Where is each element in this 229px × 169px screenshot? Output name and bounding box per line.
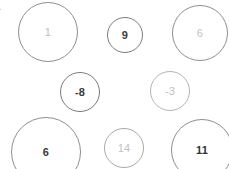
bubble-label: -8: [75, 87, 85, 98]
bubble[interactable]: 9: [107, 17, 143, 53]
left-edge-glyph: r: [0, 6, 1, 17]
bubble[interactable]: 14: [104, 128, 144, 168]
bubble[interactable]: 11: [171, 119, 229, 169]
bubble[interactable]: -8: [60, 72, 100, 112]
bubble[interactable]: -3: [150, 71, 190, 111]
bubble-label: 1: [45, 27, 51, 38]
bubble-label: 9: [122, 30, 128, 41]
bubble-label: -3: [165, 86, 175, 97]
bubble-label: 6: [43, 147, 49, 158]
bubble-grid-canvas: r 196-8-361411: [0, 0, 229, 169]
bubble-label: 6: [197, 28, 203, 39]
bubble-label: 11: [196, 145, 208, 156]
bubble[interactable]: 1: [18, 2, 78, 62]
bubble-label: 14: [118, 143, 131, 154]
bubble[interactable]: 6: [172, 5, 228, 61]
bubble[interactable]: 6: [11, 117, 81, 169]
